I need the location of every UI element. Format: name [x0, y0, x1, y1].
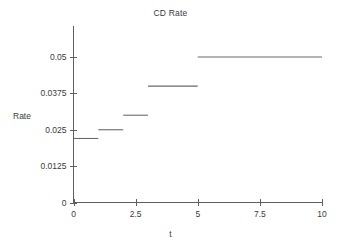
y-tick-label: 0.025 — [45, 125, 67, 135]
plot-area: 00.01250.0250.03750.05 02.557.510 — [0, 0, 341, 246]
axes-group — [74, 26, 323, 203]
step-series-group — [74, 57, 323, 138]
x-tick-group: 02.557.510 — [71, 199, 327, 219]
x-tick-label: 7.5 — [254, 209, 266, 219]
y-tick-group: 00.01250.0250.03750.05 — [41, 52, 78, 208]
y-tick-label: 0.05 — [50, 52, 67, 62]
x-tick-label: 0 — [71, 209, 76, 219]
x-tick-label: 10 — [317, 209, 327, 219]
y-tick-label: 0 — [62, 198, 67, 208]
cd-rate-chart: CD Rate Rate t 00.01250.0250.03750.05 02… — [0, 0, 341, 246]
y-tick-label: 0.0125 — [41, 161, 67, 171]
x-tick-label: 5 — [195, 209, 200, 219]
x-tick-label: 2.5 — [130, 209, 142, 219]
y-tick-label: 0.0375 — [41, 88, 67, 98]
